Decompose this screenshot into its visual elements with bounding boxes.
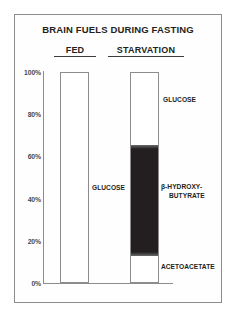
annotation-fed-glucose: GLUCOSE [92,184,134,193]
bar-starvation [130,72,159,283]
annotation-starvation-glucose: GLUCOSE [163,96,223,105]
y-tick-0: 0% [15,280,41,287]
bar-segment-acetoacetate [131,256,158,282]
y-tick-80: 80% [15,111,41,118]
y-tick-100: 100% [15,69,41,76]
figure-canvas: BRAIN FUELS DURING FASTING FED STARVATIO… [0,0,235,318]
figure-frame [14,14,222,303]
annotation-bhb-line1: β-HYDROXY- [161,183,202,190]
bar-fed [60,72,89,283]
annotation-beta-hydroxybutyrate: β-HYDROXY- BUTYRATE [161,183,221,200]
x-axis-line [43,283,173,284]
y-tick-20: 20% [15,238,41,245]
annotation-bhb-line2: BUTYRATE [161,192,221,201]
y-tick-60: 60% [15,153,41,160]
y-tick-40: 40% [15,196,41,203]
column-heading-starvation: STARVATION [108,45,184,57]
y-axis-line [43,71,44,284]
annotation-acetoacetate: ACETOACETATE [161,263,223,272]
column-heading-fed: FED [54,45,96,57]
page-title: BRAIN FUELS DURING FASTING [14,24,222,35]
y-axis-ticks: 100% 80% 60% 40% 20% 0% [14,0,41,318]
bar-segment-beta-hydroxybutyrate [131,145,158,256]
bar-segment-glucose [131,73,158,145]
